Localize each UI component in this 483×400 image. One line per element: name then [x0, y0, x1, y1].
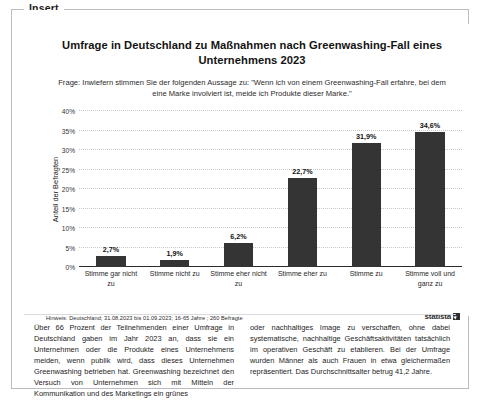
statista-infographic-card: Umfrage in Deutschland zu Maßnahmen nach…: [12, 10, 468, 388]
section-divider: [24, 314, 456, 315]
x-axis-category-label: Stimme gar nicht zu: [79, 269, 143, 288]
y-axis-tick-label: 5%: [65, 244, 75, 251]
bar[interactable]: 22,7%: [288, 178, 317, 267]
x-axis-category-label: Stimme eher nicht zu: [207, 269, 271, 288]
bar[interactable]: 6,2%: [224, 243, 253, 267]
y-axis-tick-label: 10%: [62, 225, 75, 232]
bar-value-label: 2,7%: [103, 245, 119, 254]
bar-value-label: 34,6%: [420, 121, 440, 130]
y-axis-tick-label: 15%: [62, 205, 75, 212]
chart-container: Umfrage in Deutschland zu Maßnahmen nach…: [24, 24, 480, 316]
chart-title: Umfrage in Deutschland zu Maßnahmen nach…: [48, 38, 456, 67]
y-axis-tick-label: 30%: [62, 147, 75, 154]
y-axis-tick-label: 40%: [62, 108, 75, 115]
x-axis-category-label: Stimme nicht zu: [143, 269, 207, 288]
bar-value-label: 31,9%: [356, 132, 376, 141]
y-axis-tick-label: 35%: [62, 127, 75, 134]
chart-subtitle-question: Frage: Inwiefern stimmen Sie der folgend…: [56, 77, 448, 99]
bar[interactable]: 1,9%: [160, 260, 189, 267]
bar-slot: 2,7%: [79, 111, 143, 267]
plot-area: Anteil der Befragten 0%5%10%15%20%25%30%…: [34, 111, 470, 299]
bar-slot: 34,6%: [398, 111, 462, 267]
bar-value-label: 6,2%: [230, 232, 246, 241]
bar-value-label: 22,7%: [292, 167, 312, 176]
plot-canvas: 0%5%10%15%20%25%30%35%40% 2,7%1,9%6,2%22…: [79, 111, 462, 267]
article-column-right: oder nachhaltiges Image zu verschaffen, …: [250, 322, 450, 399]
chart-note: Hinweis: Deutschland; 31.08.2023 bis 01.…: [46, 315, 243, 321]
y-axis-title-text: Anteil der Befragten: [52, 156, 61, 221]
bar-value-label: 1,9%: [167, 249, 183, 258]
y-axis-tick-label: 0%: [65, 264, 75, 271]
x-axis-category-label: Stimme zu: [334, 269, 398, 288]
bar[interactable]: 31,9%: [352, 143, 381, 267]
article-body: Über 66 Prozent der Teilnehmenden einer …: [34, 322, 450, 399]
bar-slot: 31,9%: [334, 111, 398, 267]
bar-slot: 6,2%: [207, 111, 271, 267]
y-axis-tick-label: 25%: [62, 166, 75, 173]
y-axis-tick-label: 20%: [62, 186, 75, 193]
bar-slot: 22,7%: [270, 111, 334, 267]
bar[interactable]: 2,7%: [96, 256, 125, 267]
bar[interactable]: 34,6%: [415, 132, 444, 267]
x-axis-category-label: Stimme voll und ganz zu: [398, 269, 462, 288]
bar-series: 2,7%1,9%6,2%22,7%31,9%34,6%: [79, 111, 462, 267]
x-axis-category-label: Stimme eher zu: [270, 269, 334, 288]
article-column-left: Über 66 Prozent der Teilnehmenden einer …: [34, 322, 234, 399]
bar-slot: 1,9%: [143, 111, 207, 267]
y-axis-title: Anteil der Befragten: [50, 111, 62, 267]
x-axis-labels: Stimme gar nicht zuStimme nicht zuStimme…: [79, 269, 462, 288]
